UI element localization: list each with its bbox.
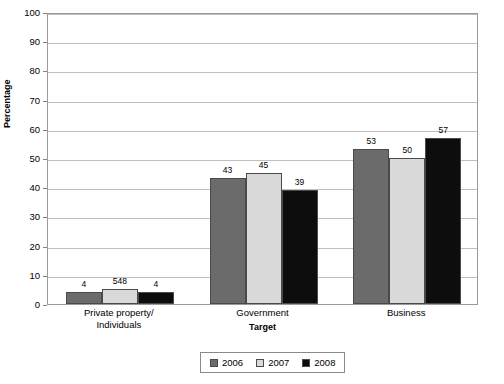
legend-swatch-icon	[210, 359, 218, 367]
bar-group: 535057	[353, 14, 461, 304]
bar-2006-1	[66, 292, 102, 304]
category-label: Business	[326, 307, 486, 319]
y-tick-label: 0	[0, 300, 40, 310]
y-tick-label: 30	[0, 212, 40, 222]
bar-2007-1	[102, 289, 138, 304]
y-tick-label: 80	[0, 66, 40, 76]
bar-value-label: 57	[419, 126, 467, 135]
legend-swatch-icon	[256, 359, 264, 367]
legend-label: 2006	[222, 358, 243, 368]
bar-2008-3	[425, 138, 461, 304]
y-tick-label: 60	[0, 125, 40, 135]
y-tick-label: 90	[0, 37, 40, 47]
legend-item-2008[interactable]: 2008	[302, 358, 335, 368]
category-label-line: Business	[326, 307, 486, 319]
legend-label: 2007	[268, 358, 289, 368]
y-tick-label: 100	[0, 8, 40, 18]
y-tick-label: 70	[0, 96, 40, 106]
y-tick-label: 20	[0, 242, 40, 252]
bar-2008-2	[282, 190, 318, 304]
legend-label: 2008	[314, 358, 335, 368]
bar-value-label: 39	[276, 178, 324, 187]
y-tick-mark	[43, 305, 47, 306]
bar-value-label: 4	[132, 280, 180, 289]
bar-chart: Percentage 1009080706050403020100 454844…	[0, 0, 504, 384]
plot-area: 45484434539535057	[47, 13, 478, 305]
bar-2007-3	[389, 158, 425, 304]
legend-item-2007[interactable]: 2007	[256, 358, 289, 368]
y-tick-label: 50	[0, 154, 40, 164]
legend: 200620072008	[200, 352, 345, 373]
bar-group: 434539	[210, 14, 318, 304]
bar-2006-3	[353, 149, 389, 304]
category-label-line: Government	[183, 307, 343, 319]
y-tick-label: 10	[0, 271, 40, 281]
bar-value-label: 45	[240, 161, 288, 170]
legend-item-2006[interactable]: 2006	[210, 358, 243, 368]
bar-value-label: 50	[383, 146, 431, 155]
bar-group: 45484	[66, 14, 174, 304]
bar-2007-2	[246, 173, 282, 304]
bar-2006-2	[210, 178, 246, 304]
y-tick-label: 40	[0, 183, 40, 193]
category-label-line: Private property/	[39, 307, 199, 319]
x-axis-title: Target	[47, 322, 478, 332]
legend-swatch-icon	[302, 359, 310, 367]
category-label: Government	[183, 307, 343, 319]
bar-2008-1	[138, 292, 174, 304]
bar-value-label: 53	[347, 137, 395, 146]
bars-layer: 45484434539535057	[48, 14, 477, 304]
